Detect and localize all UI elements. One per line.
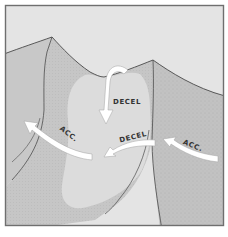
diagram-canvas: DECEL DECEL ACC. ACC.: [0, 0, 228, 237]
terrain-airflow-diagram: DECEL DECEL ACC. ACC.: [0, 0, 228, 237]
decel-top-label: DECEL: [113, 98, 141, 106]
